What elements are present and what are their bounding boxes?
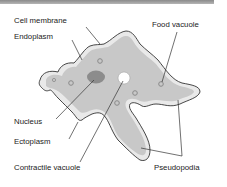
nucleus-shape [87,71,105,84]
leader-endoplasm [72,40,82,60]
label-contractile-vacuole: Contractile vacuole [14,164,80,172]
label-endoplasm: Endoplasm [14,33,53,41]
contractile-vacuole-shape [118,72,130,84]
leader-ectoplasm [69,122,78,139]
label-food-vacuole: Food vacuole [152,21,199,29]
endoplasm-region [46,36,194,155]
label-cell-membrane: Cell membrane [14,17,67,25]
label-nucleus: Nucleus [14,118,42,126]
label-ectoplasm: Ectoplasm [14,138,50,146]
leader-cell-membrane [86,27,100,44]
label-pseudopodia: Pseudopodia [154,164,200,172]
leader-pseudopodia-1 [178,100,182,156]
